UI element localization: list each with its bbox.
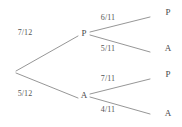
tree-edge-A-to-AA — [90, 97, 150, 114]
edge-label-p-to-pp: 6/11 — [101, 14, 115, 22]
leaf-label-aa: A — [165, 109, 172, 118]
leaf-label-ap: P — [165, 70, 170, 79]
tree-edge-P-to-PP — [90, 17, 150, 32]
tree-edge-A-to-AP — [90, 79, 150, 94]
tree-branch-lines — [0, 0, 182, 127]
edge-label-a-to-ap: 7/11 — [101, 75, 115, 83]
node-label-level1-a: A — [81, 91, 88, 100]
edge-label-root-to-p: 7/12 — [18, 29, 33, 37]
edge-label-p-to-pa: 5/11 — [101, 45, 115, 53]
leaf-label-pa: A — [165, 44, 172, 53]
tree-edge-root-to-P — [16, 36, 78, 71]
leaf-label-pp: P — [165, 8, 170, 17]
node-label-level1-p: P — [81, 29, 86, 38]
edge-label-a-to-aa: 4/11 — [101, 106, 115, 114]
probability-tree-diagram: P A P A P A 7/12 5/12 6/11 5/11 7/11 4/1… — [0, 0, 182, 127]
edge-label-root-to-a: 5/12 — [18, 90, 33, 98]
tree-edge-P-to-PA — [90, 35, 150, 52]
